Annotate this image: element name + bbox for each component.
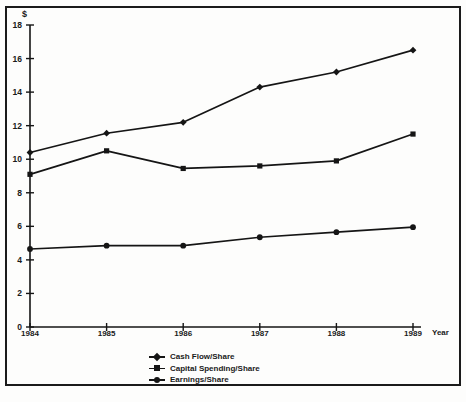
- legend-item-label: Earnings/Share: [170, 375, 229, 384]
- legend-item-label: Capital Spending/Share: [170, 364, 260, 373]
- data-point-marker: [334, 158, 339, 163]
- chart-svg: [0, 0, 466, 402]
- x-tick-label: 1988: [316, 329, 356, 338]
- data-point-marker: [333, 69, 340, 76]
- y-tick-label: 18: [2, 20, 22, 30]
- series-line: [30, 134, 413, 174]
- data-point-marker: [180, 243, 186, 249]
- data-point-marker: [180, 119, 187, 126]
- y-tick-label: 8: [2, 188, 22, 198]
- y-tick-label: 14: [2, 87, 22, 97]
- legend-item: Cash Flow/Share: [148, 351, 348, 363]
- data-point-marker: [104, 243, 110, 249]
- data-point-marker: [256, 84, 263, 91]
- legend-item-label: Cash Flow/Share: [170, 352, 234, 361]
- data-point-marker: [27, 246, 33, 252]
- y-tick-label: 12: [2, 121, 22, 131]
- legend-item: Earnings/Share: [148, 374, 348, 386]
- y-tick-label: 16: [2, 54, 22, 64]
- legend-item: Capital Spending/Share: [148, 363, 348, 375]
- data-point-marker: [410, 47, 417, 54]
- data-point-marker: [410, 224, 416, 230]
- diamond-marker-icon: [148, 351, 166, 362]
- x-tick-label: 1986: [163, 329, 203, 338]
- data-point-marker: [257, 234, 263, 240]
- x-tick-label: 1989: [393, 329, 433, 338]
- square-marker-icon: [148, 363, 166, 374]
- data-point-marker: [181, 166, 186, 171]
- x-tick-label: 1987: [240, 329, 280, 338]
- data-point-marker: [27, 149, 34, 156]
- x-tick-label: 1984: [10, 329, 50, 338]
- y-tick-label: 6: [2, 221, 22, 231]
- chart-figure: $ Year 024681012141618 19841985198619871…: [0, 0, 466, 402]
- data-point-marker: [410, 131, 415, 136]
- y-tick-label: 2: [2, 288, 22, 298]
- data-point-marker: [104, 148, 109, 153]
- data-point-marker: [27, 172, 32, 177]
- data-point-marker: [257, 163, 262, 168]
- data-point-marker: [103, 130, 110, 137]
- series-line: [30, 50, 413, 152]
- series-line: [30, 227, 413, 249]
- round-marker-icon: [148, 374, 166, 385]
- y-tick-label: 4: [2, 255, 22, 265]
- data-point-marker: [334, 229, 340, 235]
- plot-area: [0, 0, 466, 402]
- x-tick-label: 1985: [87, 329, 127, 338]
- chart-legend: Cash Flow/Share Capital Spending/Share E…: [148, 351, 348, 386]
- y-tick-label: 10: [2, 154, 22, 164]
